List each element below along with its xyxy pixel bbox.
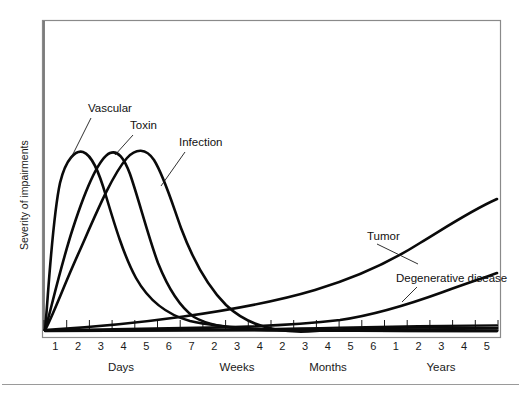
x-tick-label: 7 [189,340,195,352]
x-tick-label: 5 [143,340,149,352]
series-label-degenerative-disease: Degenerative disease [396,272,507,284]
x-group-label-days: Days [108,361,134,373]
x-tick-label: 5 [484,340,490,352]
x-tick-label: 2 [416,340,422,352]
x-tick-label: 3 [234,340,240,352]
series-label-vascular: Vascular [88,102,132,114]
curve-infection [45,151,497,332]
series-label-tumor: Tumor [367,230,400,242]
y-axis-label: Severity of impairments [18,140,30,250]
chart-frame [43,21,501,338]
x-tick-label: 4 [120,340,126,352]
x-tick-label: 4 [461,340,467,352]
x-tick-labels: 1 2 3 4 5 6 7 2 3 4 2 3 4 5 6 1 2 3 4 5 [52,340,489,352]
x-tick-label: 1 [52,340,58,352]
x-tick-label: 4 [257,340,263,352]
x-tick-label: 2 [211,340,217,352]
x-group-label-years: Years [427,361,456,373]
x-tick-label: 3 [98,340,104,352]
x-tick-label: 6 [370,340,376,352]
x-tick-label: 2 [279,340,285,352]
x-tick-label: 2 [75,340,81,352]
leader-infection [161,152,185,186]
x-group-label-weeks: Weeks [220,361,255,373]
x-tick-label: 1 [393,340,399,352]
x-tick-label: 5 [347,340,353,352]
series-label-infection: Infection [179,136,222,148]
figure-container: Severity of impairments Vascular Toxin I… [0,0,521,401]
severity-of-impairments-chart: Severity of impairments Vascular Toxin I… [0,0,521,401]
x-tick-label: 6 [166,340,172,352]
x-tick-label: 3 [302,340,308,352]
leader-degenerative [402,287,417,302]
series-label-toxin: Toxin [130,119,157,131]
leader-toxin [115,135,133,155]
x-tick-label: 3 [438,340,444,352]
x-group-labels: Days Weeks Months Years [108,361,456,373]
x-group-label-months: Months [309,361,347,373]
x-tick-label: 4 [325,340,331,352]
